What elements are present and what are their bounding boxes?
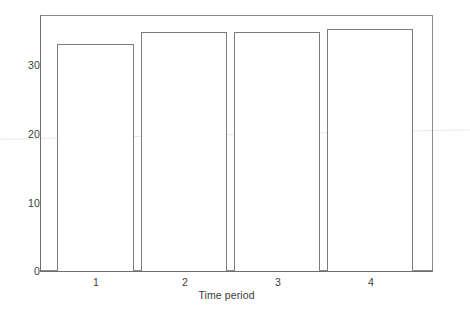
bar-1[interactable] [57, 44, 134, 272]
x-axis-line [40, 271, 433, 272]
x-axis-title: Time period [0, 289, 453, 301]
y-axis-line [40, 15, 41, 272]
y-tick-label-10: 10 [6, 198, 40, 209]
x-tick-label-2: 2 [165, 276, 205, 288]
y-tick-label-0: 0 [6, 266, 40, 277]
x-tick-label-1: 1 [76, 276, 116, 288]
bar-3[interactable] [234, 32, 320, 272]
y-tick-label-20: 20 [6, 129, 40, 140]
bar-4[interactable] [327, 29, 413, 272]
bar-2[interactable] [141, 32, 227, 272]
y-tick-label-30: 30 [6, 60, 40, 71]
x-tick-label-4: 4 [351, 276, 391, 288]
x-tick-label-3: 3 [258, 276, 298, 288]
y-axis: 30 20 10 0 [0, 0, 40, 311]
